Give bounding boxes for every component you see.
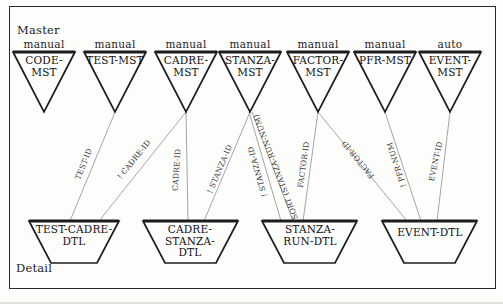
link-label-stanza-id-left: ! STANZA-ID xyxy=(205,143,234,194)
diagram-canvas: TEST-ID ! CADRE-ID CADRE-ID ! STANZA-ID … xyxy=(0,0,503,304)
master-node-name-cadre-mst: CADRE-MST xyxy=(155,55,217,78)
mode-label-test-mst: manual xyxy=(94,38,136,50)
detail-node-name-test-cadre-dtl: TEST-CADRE-DTL xyxy=(34,224,114,247)
mode-label-cadre-mst: manual xyxy=(165,38,207,50)
master-node-name-factor-mst: FACTOR-MST xyxy=(287,55,349,78)
link-line-cadre-id xyxy=(186,112,188,221)
master-node-name-stanza-mst: STANZA-MST xyxy=(219,55,281,78)
link-label-cadre-id: CADRE-ID xyxy=(171,149,183,192)
master-node-name-pfr-mst: PFR-MST xyxy=(354,55,416,67)
master-node-name-event-mst: EVENT-MST xyxy=(419,55,481,78)
detail-node-name-stanza-run-dtl: STANZA-RUN-DTL xyxy=(270,224,350,247)
master-node-name-test-mst: TEST-MST xyxy=(84,55,146,67)
detail-node-name-cadre-stanza-dtl: CADRE-STANZA-DTL xyxy=(160,224,220,259)
link-label-factor-id-diagonal: FACTOR-ID xyxy=(340,139,376,181)
link-line-stanza-id-left xyxy=(204,112,250,221)
mode-label-factor-mst: manual xyxy=(297,38,339,50)
master-tier-label: Master xyxy=(17,23,60,37)
link-label-event-id: EVENT-ID xyxy=(427,141,444,183)
link-label-cadre-id-unique: ! CADRE-ID xyxy=(115,138,152,181)
link-line-pfr-num xyxy=(385,112,421,221)
mode-label-event-mst: auto xyxy=(438,38,463,50)
master-node-name-code-mst: CODE-MST xyxy=(13,55,75,78)
mode-label-pfr-mst: manual xyxy=(364,38,406,50)
link-line-test-id xyxy=(70,112,115,221)
detail-tier-label: Detail xyxy=(16,261,52,275)
mode-label-code-mst: manual xyxy=(23,38,65,50)
detail-node-name-event-dtl: EVENT-DTL xyxy=(390,227,470,239)
mode-label-stanza-mst: manual xyxy=(229,38,271,50)
link-label-test-id: TEST-ID xyxy=(73,147,94,181)
